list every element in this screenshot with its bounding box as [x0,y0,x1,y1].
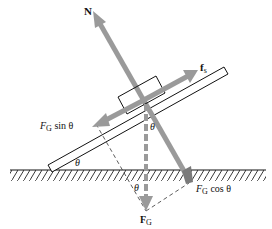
block-angle-label: θ [150,122,155,132]
incline-force-diagram: N fs FG sin θ θ θ θ FG cos θ FG [0,0,272,229]
static-friction-subscript: s [204,66,207,75]
triangle-angle-label: θ [134,183,139,193]
gravity-label: FG [140,215,152,227]
gravity-parallel-label: FG sin θ [40,121,73,133]
gravity-perp-label: FG cos θ [196,184,231,196]
ground-surface [10,170,266,181]
incline-angle-label: θ [75,158,80,168]
gravity-subscript: G [146,218,152,227]
normal-force-label: N [84,6,92,17]
friction-arrow [142,70,198,101]
static-friction-label: fs [200,62,207,75]
gravity-parallel-tail: sin θ [52,120,73,131]
gravity-perp-tail: cos θ [208,183,231,194]
diagram-canvas [0,0,272,229]
